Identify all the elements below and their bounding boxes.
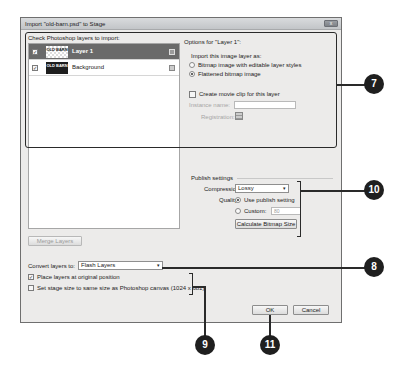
layer-1-name: Layer 1 bbox=[72, 48, 93, 54]
instance-name-input[interactable] bbox=[234, 101, 296, 109]
callout-10-line bbox=[301, 190, 365, 192]
callout-9-bracket bbox=[189, 273, 193, 295]
callout-9-line-v bbox=[204, 286, 206, 336]
calculate-bitmap-size-button[interactable]: Calculate Bitmap Size bbox=[235, 219, 297, 229]
layer-1-checkbox[interactable]: ✓ bbox=[32, 49, 38, 55]
close-icon: x bbox=[330, 20, 333, 26]
callout-8-line bbox=[162, 267, 366, 269]
dialog-titlebar: Import "old-barn.psd" to Stage x bbox=[21, 18, 341, 30]
check-icon: ✓ bbox=[33, 49, 37, 55]
convert-layers-label: Convert layers to: bbox=[28, 263, 75, 269]
radio-use-publish-setting[interactable] bbox=[235, 197, 241, 203]
callout-11-badge: 11 bbox=[260, 335, 280, 355]
callout-10-badge: 10 bbox=[364, 180, 384, 200]
cancel-button[interactable]: Cancel bbox=[293, 305, 329, 315]
callout-7-line bbox=[336, 84, 366, 86]
ok-button[interactable]: OK bbox=[252, 305, 288, 315]
chevron-down-icon: ▾ bbox=[157, 262, 160, 269]
dialog-title: Import "old-barn.psd" to Stage bbox=[25, 21, 105, 27]
custom-quality-label: Custom: bbox=[244, 208, 266, 214]
instance-name-label: Instance name: bbox=[189, 102, 230, 108]
registration-grid-icon[interactable] bbox=[235, 112, 243, 120]
layer-row-background[interactable]: ✓ OLD BARN Background bbox=[29, 60, 179, 76]
callout-11-line bbox=[269, 315, 271, 337]
callout-9-badge: 9 bbox=[195, 335, 215, 355]
check-icon: ✓ bbox=[33, 65, 37, 71]
place-original-checkbox[interactable]: ✓ bbox=[28, 274, 34, 280]
stage-size-checkbox[interactable] bbox=[28, 285, 34, 291]
radio-flattened-bitmap-label: Flattened bitmap image bbox=[198, 71, 261, 77]
movie-clip-label: Create movie clip for this layer bbox=[199, 91, 280, 97]
check-icon: ✓ bbox=[29, 274, 33, 280]
layers-list-label: Check Photoshop layers to import: bbox=[28, 35, 120, 41]
callout-7-badge: 7 bbox=[364, 74, 384, 94]
lock-icon[interactable] bbox=[169, 65, 175, 71]
convert-layers-select[interactable]: Flash Layers ▾ bbox=[78, 261, 163, 270]
background-thumbnail: OLD BARN bbox=[46, 62, 68, 74]
background-name: Background bbox=[72, 64, 104, 70]
chevron-down-icon: ▾ bbox=[283, 185, 286, 192]
layers-list[interactable]: ✓ OLD BARN Layer 1 ✓ OLD BARN Background bbox=[28, 43, 180, 229]
publish-settings-divider bbox=[237, 178, 333, 179]
place-original-label: Place layers at original position bbox=[37, 274, 120, 280]
publish-settings-title: Publish settings bbox=[191, 175, 233, 181]
radio-custom-quality[interactable] bbox=[235, 208, 241, 214]
import-as-label: Import this image layer as: bbox=[191, 53, 261, 59]
callout-8-badge: 8 bbox=[364, 257, 384, 277]
radio-flattened-bitmap[interactable] bbox=[189, 71, 195, 77]
layer-row-layer-1[interactable]: ✓ OLD BARN Layer 1 bbox=[29, 44, 179, 60]
import-dialog: Import "old-barn.psd" to Stage x Check P… bbox=[20, 17, 342, 323]
convert-layers-value: Flash Layers bbox=[81, 262, 115, 268]
registration-label: Registration: bbox=[201, 114, 235, 120]
options-title: Options for "Layer 1": bbox=[184, 39, 241, 45]
layer-1-thumbnail: OLD BARN bbox=[46, 46, 68, 58]
movie-clip-checkbox[interactable] bbox=[189, 91, 196, 98]
radio-bitmap-editable[interactable] bbox=[189, 62, 195, 68]
use-publish-setting-label: Use publish setting bbox=[244, 197, 295, 203]
background-checkbox[interactable]: ✓ bbox=[32, 65, 38, 71]
close-button[interactable]: x bbox=[324, 20, 338, 27]
merge-layers-button[interactable]: Merge Layers bbox=[28, 236, 82, 246]
layer-options-icon[interactable] bbox=[169, 49, 175, 55]
compression-select[interactable]: Lossy ▾ bbox=[235, 184, 289, 193]
stage-size-label: Set stage size to same size as Photoshop… bbox=[37, 285, 204, 291]
radio-bitmap-editable-label: Bitmap image with editable layer styles bbox=[198, 62, 301, 68]
compression-value: Lossy bbox=[238, 185, 254, 191]
